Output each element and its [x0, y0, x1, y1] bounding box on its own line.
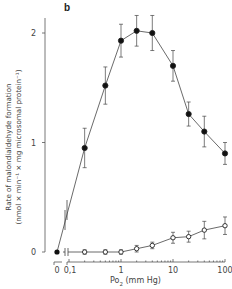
data-point-filled: [170, 63, 175, 68]
y-tick-label: 1: [31, 139, 36, 148]
series-line: [57, 31, 225, 252]
x-tick-label: 0: [54, 266, 59, 275]
data-point-open: [223, 224, 227, 228]
series-line: [68, 226, 225, 252]
y-tick-label: 0: [31, 248, 36, 257]
data-point-filled: [222, 151, 227, 156]
series-filled-circles: [54, 15, 227, 254]
line-chart: 01200,1110100: [0, 0, 232, 289]
data-point-open: [171, 236, 175, 240]
data-point-filled: [82, 145, 87, 150]
data-point-open: [186, 234, 190, 238]
data-point-filled: [118, 38, 123, 43]
data-point-open: [202, 228, 206, 232]
data-point-open: [134, 247, 138, 251]
x-axis-label: Po2 (mm Hg): [110, 276, 161, 287]
data-point-filled: [134, 28, 139, 33]
data-point-open: [103, 250, 107, 254]
x-axis-line: [67, 262, 225, 265]
y-axis-label-line1: Rate of malondialdehyde formation: [4, 42, 14, 252]
x-tick-label: 100: [217, 266, 232, 275]
x-axis-segment-zero: [54, 262, 62, 265]
data-point-open: [119, 250, 123, 254]
y-axis-label: Rate of malondialdehyde formation (nmol …: [4, 42, 24, 252]
x-tick-label: 10: [168, 266, 178, 275]
data-point-filled: [202, 129, 207, 134]
data-point-filled: [186, 111, 191, 116]
x-tick-label: 0,1: [64, 266, 77, 275]
data-point-open: [150, 243, 154, 247]
y-tick-label: 2: [31, 29, 36, 38]
axes: [42, 18, 225, 265]
series-open-circles: [63, 217, 227, 256]
data-point-filled: [54, 249, 59, 254]
data-point-filled: [150, 30, 155, 35]
data-point-filled: [103, 83, 108, 88]
x-tick-label: 1: [118, 266, 123, 275]
y-axis-label-line2: (nmol × min⁻¹ × mg microsomal protein⁻¹): [14, 42, 24, 252]
data-point-open: [82, 250, 86, 254]
